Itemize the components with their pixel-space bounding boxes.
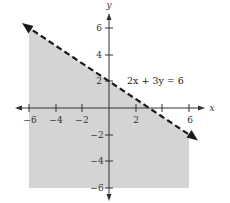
equation-label: 2x + 3y = 6 [127,75,184,86]
y-axis-label: y [105,0,112,10]
x-axis-right-arrow-icon [198,106,205,111]
inequality-graph: −6 −4 −2 2 6 6 4 2 −2 −4 −6 x y 2x + 3y … [0,0,230,203]
x-tick-label: 2 [133,115,139,125]
y-tick-label: −2 [90,130,103,140]
x-tick-label: −4 [49,115,63,125]
x-axis-label: x [209,103,214,113]
x-tick-label: 6 [187,115,193,125]
y-tick-label: −6 [90,183,104,193]
y-tick-label: 2 [96,76,102,86]
x-tick-label: −6 [23,115,37,125]
y-tick-label: 6 [96,23,102,33]
y-tick-label: 4 [96,50,102,60]
y-tick-label: −4 [90,156,104,166]
x-axis-left-arrow-icon [15,106,22,111]
x-tick-label: −2 [75,115,88,125]
y-axis-up-arrow-icon [107,13,112,20]
y-axis-down-arrow-icon [107,194,112,201]
